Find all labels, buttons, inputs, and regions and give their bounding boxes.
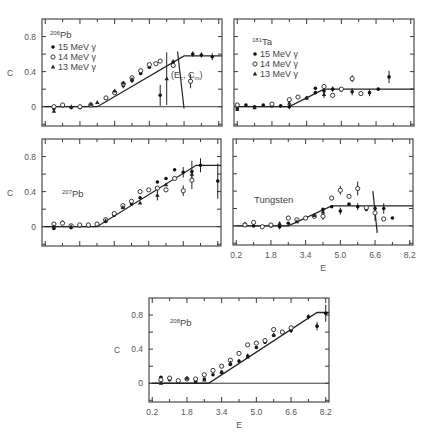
data-point-open-circle [112,211,116,215]
data-point-filled-circle [164,177,168,181]
data-point-filled-circle [376,87,380,91]
y-tick-label: 0 [31,102,36,112]
data-point-open-circle [154,62,158,66]
panel-title: 207Pb [62,188,84,199]
legend-marker-open-circle [253,62,257,66]
data-point-open-circle [235,103,239,107]
data-point-triangle [164,76,168,80]
element-symbol: Ta [262,36,273,47]
data-point-open-circle [263,339,267,343]
panel-title: Tungsten [254,194,293,205]
data-point-triangle [112,89,116,93]
data-point-open-circle [129,199,133,203]
data-point-open-circle [350,77,354,81]
data-point-filled-circle [138,196,142,200]
y-tick-label: 0.4 [24,67,36,77]
data-point-filled-circle [356,205,360,209]
y-tick-label: 0 [138,378,143,388]
element-symbol: Pb [60,29,72,40]
data-point-open-circle [188,79,192,83]
data-point-open-circle [237,351,241,355]
x-tick-label: 8.2 [404,250,416,260]
panel-middle-left: 00.40.8C207Pb [7,139,221,246]
data-point-open-circle [164,188,168,192]
data-point-open-circle [104,96,108,100]
legend-marker-filled-circle [253,52,257,56]
x-axis-label: E [236,420,242,430]
legend-marker-filled-circle [51,45,55,49]
data-point-open-circle [78,223,82,227]
x-axis-label: E [320,263,326,273]
y-tick-label: 0.8 [24,152,36,162]
x-tick-label: 1.8 [181,407,193,417]
data-point-open-circle [338,188,342,192]
data-point-open-circle [202,373,206,377]
data-point-open-circle [139,69,143,73]
plot-frame [149,298,329,402]
data-point-triangle [155,193,159,197]
data-point-open-circle [296,95,300,99]
data-point-open-circle [190,178,194,182]
data-point-open-circle [321,214,325,218]
data-point-open-circle [260,225,264,229]
data-point-open-circle [359,91,363,95]
element-symbol: Pb [72,188,84,199]
y-tick-label: 0.4 [131,344,143,354]
data-point-filled-circle [339,209,343,213]
data-point-filled-circle [200,53,204,57]
y-tick-label: 0.4 [24,187,36,197]
legend-entry: 15 MeV γ [58,42,97,52]
y-tick-label: 0.8 [131,310,143,320]
data-point-open-circle [382,217,386,221]
panel-title: 208Pb [170,317,192,328]
data-point-triangle [271,332,275,336]
data-point-filled-circle [391,216,395,220]
data-point-open-circle [243,223,247,227]
data-point-filled-circle [307,315,311,319]
legend-entry: 15 MeV γ [260,49,299,59]
data-point-triangle [322,92,326,96]
data-point-filled-circle [315,324,319,328]
data-point-filled-circle [210,55,214,59]
data-point-open-circle [339,87,343,91]
legend-marker-triangle [51,65,55,69]
data-point-open-circle [95,222,99,226]
data-point-filled-circle [173,168,177,172]
ec-cm-annotation: (Ec, Cm) [171,70,203,81]
data-point-filled-circle [314,91,318,95]
x-tick-label: 3.4 [300,250,312,260]
data-point-open-circle [246,343,250,347]
data-point-open-circle [171,63,175,67]
data-point-filled-circle [368,91,372,95]
x-tick-label: 6.6 [285,407,297,417]
data-point-open-circle [331,93,335,97]
data-point-open-circle [211,368,215,372]
x-tick-label: 8.2 [320,407,332,417]
ann-part: (E [171,70,180,80]
data-point-open-circle [304,216,308,220]
data-point-open-circle [269,223,273,227]
panel-top-right: 181Ta15 MeV γ14 MeV γ13 MeV γ [234,19,414,126]
data-point-filled-circle [216,179,220,183]
data-point-filled-circle [331,87,335,91]
legend-entry: 13 MeV γ [260,69,299,79]
y-tick-label: 0.8 [24,32,36,42]
data-point-open-circle [252,220,256,224]
panel-title: 206Pb [50,29,72,40]
x-tick-label: 5.0 [334,250,346,260]
data-point-filled-circle [330,205,334,209]
ann-part: ) [200,70,203,80]
panel-title: 181Ta [252,36,273,47]
data-point-filled-circle [387,75,391,79]
panel-bottom-center: 00.40.8C0.21.83.45.06.68.2E208Pb [114,298,332,430]
y-tick-label: 0 [31,222,36,232]
data-point-filled-circle [255,346,259,350]
data-point-open-circle [280,330,284,334]
data-point-filled-circle [347,202,351,206]
legend-entry: 14 MeV γ [58,52,97,62]
x-tick-label: 5.0 [250,407,262,417]
data-point-filled-circle [211,373,215,377]
data-point-filled-circle [261,103,265,107]
figure: 00.40.8C206Pb15 MeV γ14 MeV γ13 MeV γ(Ec… [0,0,426,438]
data-point-filled-circle [181,171,185,175]
